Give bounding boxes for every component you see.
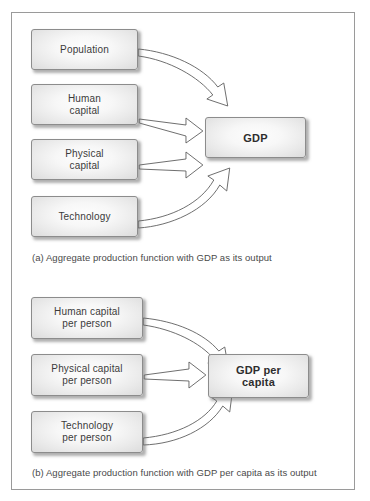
- arrow-population-to-gdp: [138, 49, 227, 106]
- node-human-capital-per-person-label-line1: Human capital: [54, 306, 120, 318]
- node-gdp-per-capita: GDP per capita: [208, 354, 309, 398]
- node-technology-per-person-label-line1: Technology: [61, 420, 113, 432]
- arrow-human-capital-to-gdp: [139, 118, 203, 143]
- node-physical-capital: Physical capital: [31, 139, 138, 180]
- node-technology: Technology: [31, 196, 138, 237]
- node-human-capital-label-line2: capital: [68, 105, 101, 117]
- node-gdp-per-capita-label-line1: GDP per: [236, 364, 281, 376]
- node-population-label: Population: [60, 44, 109, 56]
- arrow-technology-to-gdp: [138, 168, 229, 228]
- node-human-capital-per-person: Human capital per person: [31, 297, 143, 339]
- node-physical-capital-per-person-label-line1: Physical capital: [51, 363, 122, 375]
- figure-frame: Population Human capital Physical capita…: [11, 12, 355, 490]
- node-population: Population: [31, 29, 138, 70]
- panel-aggregate-production-gdp: Population Human capital Physical capita…: [12, 13, 354, 275]
- node-gdp-label: GDP: [243, 132, 267, 144]
- panel-a-caption: (a) Aggregate production function with G…: [32, 252, 342, 263]
- arrow-physical-capital-to-gdp: [139, 152, 203, 178]
- node-physical-capital-label-line1: Physical: [65, 148, 103, 160]
- node-technology-per-person-label-line2: per person: [61, 432, 113, 444]
- node-technology-label: Technology: [58, 211, 110, 223]
- node-technology-per-person: Technology per person: [31, 411, 143, 453]
- node-physical-capital-label-line2: capital: [65, 160, 103, 172]
- arrow-physical-capital-per-person-to-gdp-per-capita: [144, 362, 206, 388]
- node-human-capital-label-line1: Human: [68, 93, 101, 105]
- node-physical-capital-per-person-label-line2: per person: [51, 375, 122, 387]
- node-gdp: GDP: [205, 117, 306, 158]
- node-physical-capital-per-person: Physical capital per person: [31, 354, 143, 396]
- node-gdp-per-capita-label-line2: capita: [236, 376, 281, 388]
- node-human-capital: Human capital: [31, 84, 138, 125]
- panel-b-caption: (b) Aggregate production function with G…: [32, 467, 342, 478]
- panel-aggregate-production-gdp-per-capita: Human capital per person Physical capita…: [12, 275, 354, 491]
- node-human-capital-per-person-label-line2: per person: [54, 318, 120, 330]
